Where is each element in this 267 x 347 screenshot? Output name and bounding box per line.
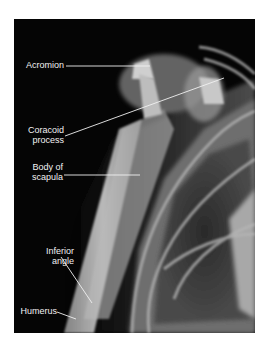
label-text: Inferior xyxy=(46,246,74,256)
label-text: Humerus xyxy=(20,306,57,316)
label-text: process xyxy=(28,135,64,145)
label-text: Body of xyxy=(32,162,63,172)
label-inferior-angle: Inferior angle xyxy=(46,246,74,266)
label-text: Acromion xyxy=(26,60,64,70)
label-text: scapula xyxy=(32,172,63,182)
label-acromion: Acromion xyxy=(26,60,64,70)
label-humerus: Humerus xyxy=(20,306,57,316)
label-text: Coracoid xyxy=(28,125,64,135)
label-body-of-scapula: Body of scapula xyxy=(32,162,63,182)
label-coracoid-process: Coracoid process xyxy=(28,125,64,145)
label-text: angle xyxy=(46,256,74,266)
xray-image: Acromion Coracoid process Body of scapul… xyxy=(14,19,255,333)
